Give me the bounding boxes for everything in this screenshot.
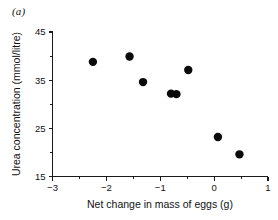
y-axis-ticks xyxy=(49,32,53,177)
y-tick-label: 35 xyxy=(35,75,46,86)
scatter-plot: 15253545 −3−2−101 Net change in mass of … xyxy=(0,0,278,220)
data-point xyxy=(172,90,180,98)
x-tick-label: 1 xyxy=(265,182,270,193)
x-tick-label: −2 xyxy=(101,182,112,193)
y-axis-title: Urea concentration (mmol/litre) xyxy=(10,32,22,176)
data-point xyxy=(139,78,147,86)
figure-panel: (a) 15253545 −3−2−101 Net change in mass… xyxy=(0,0,278,220)
y-axis-tick-labels: 15253545 xyxy=(35,26,46,182)
data-point xyxy=(184,66,192,74)
x-tick-label: −1 xyxy=(155,182,166,193)
data-point xyxy=(89,58,97,66)
data-point xyxy=(214,133,222,141)
y-tick-label: 25 xyxy=(35,123,46,134)
x-axis-tick-labels: −3−2−101 xyxy=(47,182,271,193)
x-axis-title: Net change in mass of eggs (g) xyxy=(87,198,233,210)
data-point xyxy=(125,52,133,60)
y-tick-label: 15 xyxy=(35,171,46,182)
data-points-group xyxy=(89,52,244,158)
data-point xyxy=(235,150,243,158)
y-tick-label: 45 xyxy=(35,26,46,37)
x-tick-label: −3 xyxy=(47,182,58,193)
x-tick-label: 0 xyxy=(211,182,216,193)
x-axis-ticks xyxy=(53,177,269,181)
